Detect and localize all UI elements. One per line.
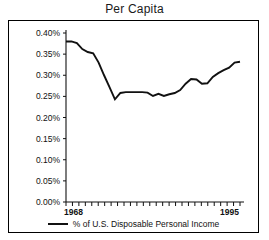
y-axis-tick-label: 0.25% — [22, 92, 60, 100]
y-axis-tick-label: 0.15% — [22, 135, 60, 143]
line-swatch-icon — [48, 223, 68, 225]
page-title: Per Capita — [0, 2, 269, 16]
y-axis-tick-label: 0.00% — [22, 198, 60, 206]
legend-label: % of U.S. Disposable Personal Income — [73, 219, 219, 229]
x-axis-tick-label: 1968 — [64, 208, 83, 216]
y-axis-tick-label: 0.30% — [22, 71, 60, 79]
chart-container: Per Capita % of U.S. Disposable Personal… — [0, 0, 269, 240]
y-axis-tick-label: 0.40% — [22, 29, 60, 37]
y-axis-tick-label: 0.35% — [22, 50, 60, 58]
x-axis-tick-label: 1995 — [220, 208, 239, 216]
chart-legend: % of U.S. Disposable Personal Income — [8, 216, 259, 231]
y-axis-tick-label: 0.10% — [22, 156, 60, 164]
y-axis-tick-label: 0.20% — [22, 114, 60, 122]
y-axis-tick-label: 0.05% — [22, 177, 60, 185]
